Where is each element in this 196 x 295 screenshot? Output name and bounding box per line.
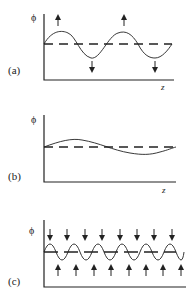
panel-label-a: (a): [8, 64, 20, 76]
wave-a: [44, 31, 172, 58]
axes-a: [44, 14, 174, 80]
down-arrows: [50, 229, 172, 238]
y-axis-symbol-b: ϕ: [31, 114, 36, 125]
panel-c: [44, 220, 186, 287]
up-arrows: [58, 267, 181, 276]
x-axis-symbol-b: z: [162, 185, 166, 195]
y-axis-symbol-a: ϕ: [31, 12, 36, 23]
axes-b: [44, 115, 176, 182]
panel-label-b: (b): [8, 170, 21, 182]
x-axis-symbol-a: z: [161, 82, 165, 92]
y-axis-symbol-c: ϕ: [29, 225, 34, 236]
panel-b: [44, 115, 176, 182]
panel-a: [44, 14, 174, 80]
panel-label-c: (c): [8, 275, 20, 287]
diagram-canvas: [0, 0, 196, 295]
